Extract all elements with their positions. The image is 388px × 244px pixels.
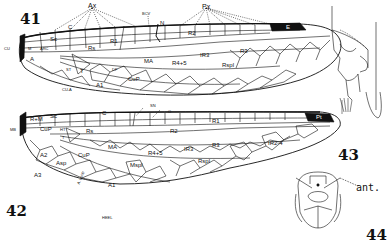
label-cu-a: CU-A (62, 88, 72, 92)
label-e: E (286, 24, 290, 30)
label-bcv: BCV (142, 12, 150, 16)
label-t-hind: T (62, 136, 64, 140)
appendage-drawing (332, 6, 381, 118)
label-t: T (80, 68, 84, 74)
label-rspl-hind: Rspl (198, 158, 210, 164)
label-mb: MB (10, 128, 16, 132)
label-cu: CU (4, 47, 10, 51)
figure-plate (0, 0, 388, 244)
label-rs: Rs (88, 45, 95, 51)
label-ht: HT (60, 128, 65, 132)
figure-number-44: 44 (366, 226, 387, 244)
label-heel: HEEL (102, 216, 112, 220)
label-m: M (28, 47, 31, 51)
label-r3: R3 (240, 48, 248, 54)
hindwing-drawing (20, 108, 340, 184)
label-sc-hind: Sc (50, 113, 57, 119)
label-r4-5-hind: R4+5 (148, 150, 163, 156)
label-px: Px (202, 3, 210, 10)
label-o: O (168, 110, 171, 114)
label-cup: CuP (128, 76, 140, 82)
label-ir3: IR3 (200, 52, 209, 58)
label-ma-hind: MA (108, 144, 117, 150)
head-drawing (295, 172, 358, 228)
label-r3-hind: R3 (212, 142, 220, 148)
label-pt: Pt (316, 114, 322, 120)
label-a1: A1 (96, 82, 103, 88)
label-ma: MA (144, 58, 153, 64)
label-c-hind: C (102, 110, 106, 116)
label-cup-hind: CuP (40, 126, 52, 132)
label-sc: Sc (50, 36, 57, 42)
label-r2: R2 (188, 30, 196, 36)
label-r-plus-m: R+M (30, 116, 43, 122)
figure-number-41: 41 (20, 10, 41, 28)
label-r4-5: R4+5 (172, 60, 187, 66)
label-rs-hind: Rs (86, 128, 93, 134)
label-a2: A2 (40, 152, 47, 158)
label-a1-hind: A1 (108, 182, 115, 188)
label-r2-hind: R2 (170, 128, 178, 134)
label-rspl: Rspl (222, 62, 234, 68)
label-sn: SN (150, 104, 156, 108)
figure-number-43: 43 (338, 146, 359, 164)
forewing-drawing (19, 8, 341, 95)
label-st: ST (66, 68, 71, 72)
label-r1-hind: R1 (212, 118, 220, 124)
figure-number-42: 42 (6, 202, 27, 220)
label-cup2-hind: CuP (78, 152, 90, 158)
label-ant: ant. (356, 182, 380, 193)
label-mspl: Mspl (130, 162, 143, 168)
label-asp: Asp (56, 160, 66, 166)
label-c: C (68, 24, 72, 30)
label-ir2-4: IR2-4 (268, 140, 283, 146)
label-df: DF (112, 68, 117, 72)
label-ax: Ax (88, 2, 96, 9)
label-n: N (160, 20, 164, 26)
label-a3: A3 (34, 172, 41, 178)
label-arc: ARC (40, 47, 48, 51)
label-r1: R1 (110, 38, 118, 44)
label-a: A (30, 56, 34, 62)
label-ir3-hind: IR3 (184, 146, 193, 152)
